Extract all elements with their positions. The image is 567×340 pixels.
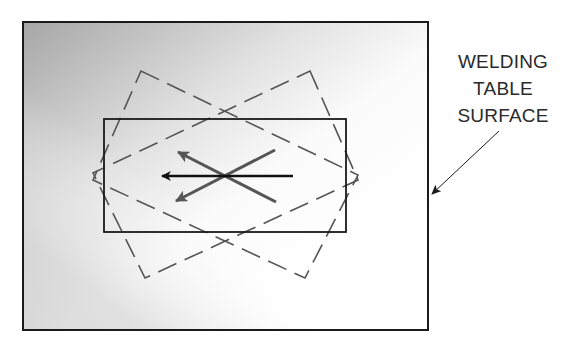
welding-table-surface-label: WELDING TABLE SURFACE: [440, 48, 566, 129]
label-line-2: TABLE: [440, 75, 566, 102]
leader-arrow-icon: [432, 131, 499, 194]
label-line-1: WELDING: [440, 48, 566, 75]
label-line-3: SURFACE: [440, 102, 566, 129]
